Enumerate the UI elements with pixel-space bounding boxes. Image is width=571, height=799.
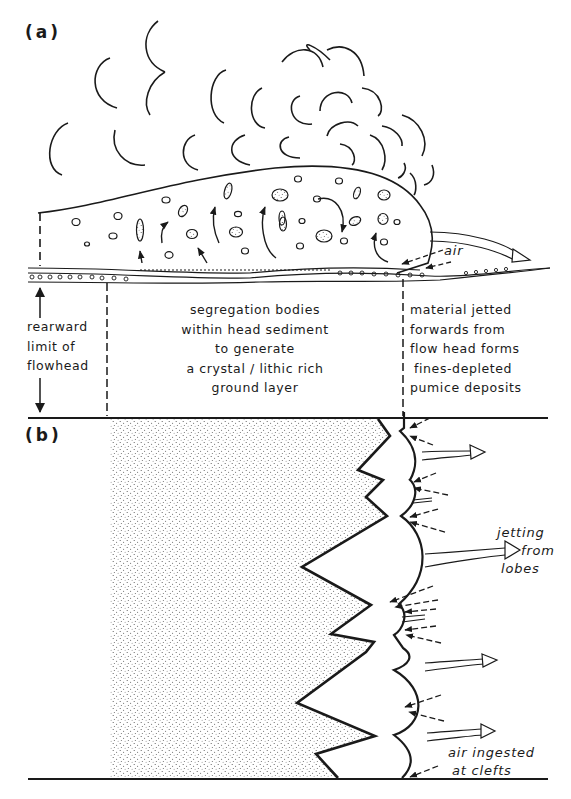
diagram-canvas bbox=[0, 0, 571, 799]
lobe-outline bbox=[394, 412, 423, 778]
air-ingested-text: air ingested at clefts bbox=[448, 744, 535, 780]
rearward-line-1: rearward bbox=[27, 317, 89, 337]
segregation-line-3: to generate bbox=[110, 339, 400, 359]
ingested-line-1: air ingested bbox=[448, 744, 535, 762]
air-label: air bbox=[444, 242, 463, 260]
ash-cloud-puffs bbox=[50, 21, 434, 195]
jetted-line-5: pumice deposits bbox=[410, 378, 522, 398]
jetting-line-2: from bbox=[497, 542, 555, 560]
flowhead-body bbox=[38, 166, 432, 273]
jetted-line-3: flow head forms bbox=[410, 339, 522, 359]
rearward-limit-text: rearward limit of flowhead bbox=[27, 317, 89, 376]
jetted-line-2: forwards from bbox=[410, 320, 522, 340]
clasts-in-head bbox=[72, 176, 400, 258]
jetting-line-3: lobes bbox=[497, 560, 555, 578]
jetted-material-text: material jetted forwards from flow head … bbox=[410, 300, 522, 398]
rearward-line-3: flowhead bbox=[27, 356, 89, 376]
jetted-line-1: material jetted bbox=[410, 300, 522, 320]
panel-b-label: (b) bbox=[25, 425, 62, 445]
segregation-line-4: a crystal / lithic rich bbox=[110, 359, 400, 379]
segregation-line-5: ground layer bbox=[110, 378, 400, 398]
ingested-line-2: at clefts bbox=[448, 762, 535, 780]
segregation-text: segregation bodies within head sediment … bbox=[110, 300, 400, 398]
jetting-line-1: jetting bbox=[497, 524, 555, 542]
ground-layer bbox=[28, 267, 550, 283]
jetted-line-4: fines-depleted bbox=[410, 359, 522, 379]
segregation-line-2: within head sediment bbox=[110, 320, 400, 340]
segregation-line-1: segregation bodies bbox=[110, 300, 400, 320]
circulation-arrows bbox=[140, 198, 388, 263]
rearward-line-2: limit of bbox=[27, 337, 89, 357]
air-ingestion-arrows-b bbox=[390, 418, 448, 777]
jetting-from-lobes-text: jetting from lobes bbox=[497, 524, 555, 578]
panel-a-label: (a) bbox=[25, 22, 61, 42]
